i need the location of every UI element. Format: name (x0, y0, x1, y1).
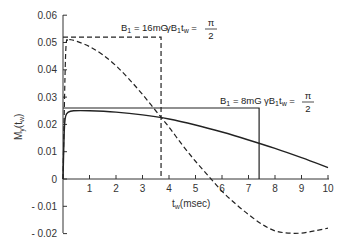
x-tick-label: 10 (322, 183, 334, 194)
svg-text:π: π (208, 17, 215, 28)
svg-text:B1 = 8mG: B1 = 8mG (220, 95, 262, 107)
x-tick-label: 1 (87, 183, 93, 194)
x-tick-label: 5 (193, 183, 199, 194)
y-tick-label: - 0.02 (31, 228, 57, 239)
svg-text:2: 2 (305, 103, 310, 114)
svg-text:2: 2 (208, 30, 213, 41)
x-tick-label: 7 (246, 183, 252, 194)
y-tick-label: 0.01 (38, 146, 58, 157)
reference-pulses (63, 37, 259, 179)
x-tick-label: 2 (113, 183, 119, 194)
annotation-8mG: B1 = 8mG γB1tw = π 2 (220, 90, 314, 114)
x-tick-label: 9 (299, 183, 305, 194)
x-tick-label: 3 (140, 183, 146, 194)
magnetization-chart: 0.060.050.040.030.020.010- 0.01- 0.02 12… (0, 0, 344, 249)
y-tick-label: 0.03 (38, 92, 58, 103)
svg-text:γB1tw =: γB1tw = (166, 22, 197, 34)
y-tick-label: 0 (51, 174, 57, 185)
svg-text:γB1tw =: γB1tw = (264, 95, 295, 107)
x-axis-label: tw(msec) (172, 198, 210, 210)
curve-8mG (63, 111, 328, 179)
svg-text:π: π (305, 90, 312, 101)
y-axis-label: My(tw) (13, 114, 26, 140)
y-tick-label: 0.06 (38, 10, 58, 21)
y-tick-label: 0.05 (38, 37, 58, 48)
y-tick-label: - 0.01 (31, 201, 57, 212)
svg-text:B1 = 16mG: B1 = 16mG (121, 22, 168, 34)
y-tick-label: 0.04 (38, 64, 58, 75)
x-tick-label: 8 (272, 183, 278, 194)
x-tick-label: 4 (166, 183, 172, 194)
y-ticks: 0.060.050.040.030.020.010- 0.01- 0.02 (31, 10, 67, 239)
y-tick-label: 0.02 (38, 119, 58, 130)
